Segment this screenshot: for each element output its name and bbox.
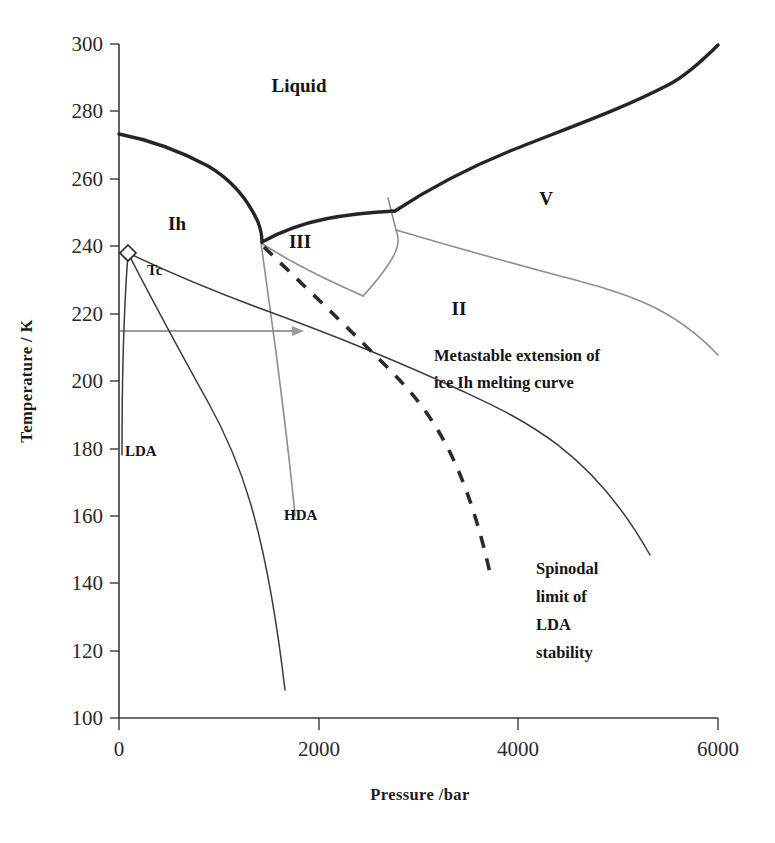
phase-diagram-figure: 300 280 260 240 220 200 180 160 140 120 … xyxy=(0,0,775,843)
x-tick-label-6000: 6000 xyxy=(697,737,739,761)
ice-iii-label: III xyxy=(289,231,311,252)
lda-label: LDA xyxy=(125,443,157,459)
metastable-note-line-2: ice Ih melting curve xyxy=(434,373,574,392)
x-tick-label-0: 0 xyxy=(114,737,125,761)
y-tick-label-200: 200 xyxy=(72,369,104,393)
y-axis: 300 280 260 240 220 200 180 160 140 120 … xyxy=(72,32,120,730)
y-tick-label-300: 300 xyxy=(72,32,104,56)
ice-v-label: V xyxy=(539,188,553,209)
y-tick-label-260: 260 xyxy=(72,167,104,191)
y-tick-label-240: 240 xyxy=(72,234,104,258)
x-tick-label-4000: 4000 xyxy=(497,737,539,761)
ice-ii-label: II xyxy=(452,298,467,319)
y-tick-label-180: 180 xyxy=(72,437,104,461)
y-tick-label-280: 280 xyxy=(72,99,104,123)
spinodal-note-line-2: limit of xyxy=(536,587,587,606)
liquid-label: Liquid xyxy=(272,75,327,96)
y-axis-title: Temperature / K xyxy=(17,319,36,442)
spinodal-note-line-3: LDA xyxy=(536,615,571,634)
y-tick-label-160: 160 xyxy=(72,504,104,528)
phase-diagram-svg: 300 280 260 240 220 200 180 160 140 120 … xyxy=(0,0,775,843)
x-tick-label-2000: 2000 xyxy=(298,737,340,761)
plot-area-background xyxy=(119,44,718,718)
y-tick-label-220: 220 xyxy=(72,302,104,326)
y-tick-label-100: 100 xyxy=(72,706,104,730)
y-tick-label-140: 140 xyxy=(72,571,104,595)
x-axis: 0 2000 4000 6000 xyxy=(114,718,739,761)
metastable-note-line-1: Metastable extension of xyxy=(434,346,600,365)
x-axis-title: Pressure /bar xyxy=(370,785,469,804)
y-tick-label-120: 120 xyxy=(72,639,104,663)
spinodal-note-line-4: stability xyxy=(536,643,594,662)
spinodal-note-line-1: Spinodal xyxy=(536,559,599,578)
hda-label: HDA xyxy=(284,507,318,523)
ice-ih-label: Ih xyxy=(168,213,186,234)
tc-label: Tc xyxy=(147,262,163,278)
